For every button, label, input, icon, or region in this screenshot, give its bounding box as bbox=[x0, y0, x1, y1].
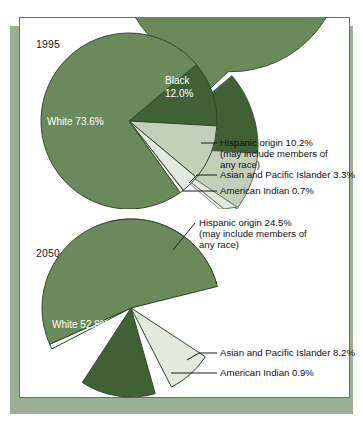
american-indian-callout-1995: American Indian 0.7% bbox=[220, 185, 314, 197]
hispanic-callout-2050-line3: any race) bbox=[199, 239, 239, 251]
hispanic-callout-1995-line2: (may include members of bbox=[220, 148, 328, 160]
hispanic-callout-2050-line1: Hispanic origin 24.5% bbox=[199, 217, 292, 229]
figure-root: 1995 bbox=[0, 0, 363, 425]
asian-callout-1995: Asian and Pacific Islander 3.3% bbox=[220, 169, 355, 181]
white-slice-label-1995: White 73.6% bbox=[47, 116, 104, 128]
hispanic-callout-2050-line2: (may include members of bbox=[199, 228, 307, 240]
pie-chart-1995: 1995 bbox=[19, 17, 350, 209]
black-slice-value-1995: 12.0% bbox=[165, 88, 193, 100]
pie-chart-2050: 2050 Black 13.6% White 52.8% Hispanic or… bbox=[19, 205, 350, 398]
american-indian-callout-2050: American Indian 0.9% bbox=[220, 367, 314, 379]
black-slice-label-1995: Black bbox=[165, 75, 189, 87]
asian-callout-2050: Asian and Pacific Islander 8.2% bbox=[220, 347, 355, 359]
hispanic-callout-1995-line1: Hispanic origin 10.2% bbox=[220, 137, 313, 149]
black-slice-label-2050: Black 13.6% bbox=[158, 303, 214, 315]
white-slice-label-2050: White 52.8% bbox=[52, 319, 109, 331]
